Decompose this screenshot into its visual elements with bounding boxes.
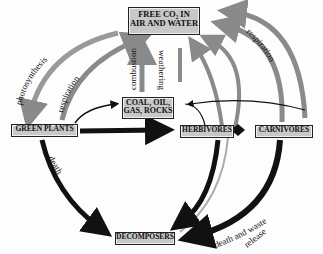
herbivores-label: HERBIVORES: [182, 125, 232, 134]
plants-to-herbivores-arrow: [80, 130, 160, 131]
node-green-plants: GREEN PLANTS: [11, 124, 78, 137]
respiration-arrow-outer: [232, 12, 305, 118]
carnivores-label: CARNIVORES: [259, 125, 309, 134]
node-herbivores: HERBIVORES: [180, 125, 234, 138]
fossil-line2: GAS, ROCKS: [123, 107, 173, 115]
combustion-label: combustion: [128, 48, 138, 90]
plants-to-fossil-arrow: [75, 104, 115, 123]
co2-line2: AIR AND WATER: [129, 19, 199, 28]
herbivores-to-fossil-arrow: [185, 104, 205, 125]
plants-death-arrow: [42, 140, 100, 228]
node-decomposers: DECOMPOSERS: [115, 232, 175, 245]
plants-label: GREEN PLANTS: [15, 124, 73, 133]
carbon-cycle-diagram: photosynthesis respiration combustion we…: [0, 0, 323, 254]
carnivores-to-fossil-arrow: [190, 101, 305, 110]
node-fossil-fuels: COAL, OIL, GAS, ROCKS: [122, 97, 174, 119]
photosynthesis-arrow: [30, 33, 118, 115]
herbivores-death-arrow: [182, 140, 218, 222]
node-free-co2: FREE CO₂ IN AIR AND WATER: [128, 7, 200, 35]
respiration-arrow-herbivores: [195, 46, 222, 126]
node-carnivores: CARNIVORES: [255, 125, 313, 138]
weathering-label: weathering: [157, 50, 167, 90]
decomposers-label: DECOMPOSERS: [116, 232, 174, 241]
